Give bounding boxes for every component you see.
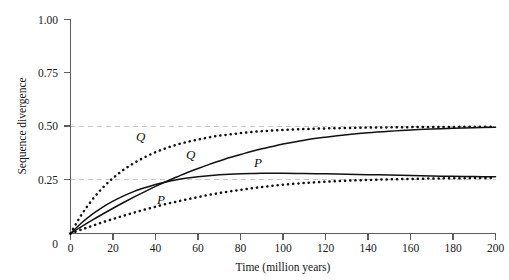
x-tick-label-0: 0 — [68, 242, 74, 254]
sequence-divergence-chart: 1.00 0.75 0.50 0.25 0 Sequence divergenc… — [0, 0, 509, 280]
y-axis: 1.00 0.75 0.50 0.25 0 Sequence divergenc… — [16, 14, 71, 251]
curve-p-solid — [71, 173, 496, 233]
x-tick-label-80: 80 — [235, 242, 247, 254]
gridlines — [70, 126, 496, 180]
curve-p-dotted — [71, 178, 496, 234]
y-tick-label-0-25: 0.25 — [38, 174, 58, 186]
curves — [71, 127, 496, 234]
x-tick-label-20: 20 — [107, 242, 119, 254]
label-p-solid: P — [253, 155, 262, 170]
x-tick-label-160: 160 — [402, 242, 420, 254]
x-tick-label-100: 100 — [274, 242, 292, 254]
curve-q-dotted — [71, 127, 496, 234]
x-tick-label-120: 120 — [317, 242, 335, 254]
label-p-dotted: P — [156, 192, 165, 207]
x-tick-label-60: 60 — [192, 242, 204, 254]
x-tick-label-200: 200 — [487, 242, 505, 254]
y-axis-title: Sequence divergence — [16, 77, 29, 174]
curve-q-solid — [71, 127, 496, 233]
label-q-dotted: Q — [136, 129, 146, 144]
figure-container: 1.00 0.75 0.50 0.25 0 Sequence divergenc… — [0, 0, 509, 280]
y-tick-label-0: 0 — [52, 238, 58, 250]
y-tick-label-0-75: 0.75 — [38, 67, 58, 79]
x-tick-label-140: 140 — [359, 242, 377, 254]
y-tick-label-1-00: 1.00 — [38, 14, 58, 26]
y-tick-label-0-50: 0.50 — [38, 120, 58, 132]
x-tick-label-180: 180 — [444, 242, 462, 254]
x-tick-label-40: 40 — [150, 242, 162, 254]
label-q-solid: Q — [186, 147, 196, 162]
x-axis-title: Time (million years) — [236, 261, 331, 274]
x-axis: 0 20 40 60 80 100 120 140 160 180 200 Ti… — [68, 234, 505, 275]
